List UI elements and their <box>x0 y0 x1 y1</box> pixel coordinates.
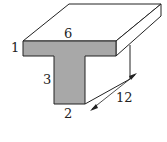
label-stem-width: 2 <box>64 107 72 120</box>
label-flange-thickness: 1 <box>11 41 19 54</box>
t-beam-drawing <box>0 0 167 142</box>
label-top-width: 6 <box>64 27 72 40</box>
t-beam-diagram: 6 1 3 2 12 <box>0 0 167 142</box>
label-stem-height: 3 <box>43 73 51 86</box>
label-length: 12 <box>116 91 133 104</box>
